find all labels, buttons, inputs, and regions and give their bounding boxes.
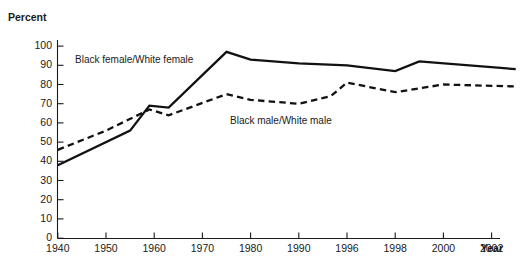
y-tick-label: 90 (40, 58, 52, 70)
y-tick-label: 80 (40, 78, 52, 90)
x-tick-label: 1990 (287, 242, 311, 254)
y-axis-tick-labels: 0 10 20 30 40 50 60 70 80 90 100 (34, 39, 52, 243)
x-axis-ticks (58, 233, 492, 239)
series-annotation-black-male-white-male: Black male/White male (230, 115, 332, 126)
y-tick-label: 60 (40, 116, 52, 128)
y-tick-label: 70 (40, 97, 52, 109)
x-tick-label: 1980 (239, 242, 263, 254)
x-tick-label: 1950 (94, 242, 118, 254)
series-annotation-black-female-white-female: Black female/White female (75, 54, 194, 65)
percent-by-year-line-chart: Percent 0 10 20 30 40 50 60 70 (0, 0, 525, 270)
y-tick-label: 30 (40, 174, 52, 186)
y-tick-label: 100 (34, 39, 52, 51)
y-tick-label: 10 (40, 212, 52, 224)
series-line-black-female-white-female (58, 52, 516, 165)
x-axis-title: Year (481, 242, 503, 254)
x-tick-label: 1940 (46, 242, 70, 254)
y-tick-label: 50 (40, 135, 52, 147)
y-tick-label: 40 (40, 154, 52, 166)
x-tick-label: 1996 (335, 242, 359, 254)
x-axis-tick-labels: 1940 1950 1960 1970 1980 1990 1996 1998 … (46, 242, 503, 254)
x-tick-label: 1970 (191, 242, 215, 254)
x-tick-label: 2000 (432, 242, 456, 254)
y-axis-title: Percent (8, 11, 47, 23)
y-tick-label: 20 (40, 193, 52, 205)
x-tick-label: 1960 (143, 242, 167, 254)
chart-svg: Percent 0 10 20 30 40 50 60 70 (0, 0, 525, 270)
x-tick-label: 1998 (384, 242, 408, 254)
y-axis-ticks (58, 46, 64, 238)
